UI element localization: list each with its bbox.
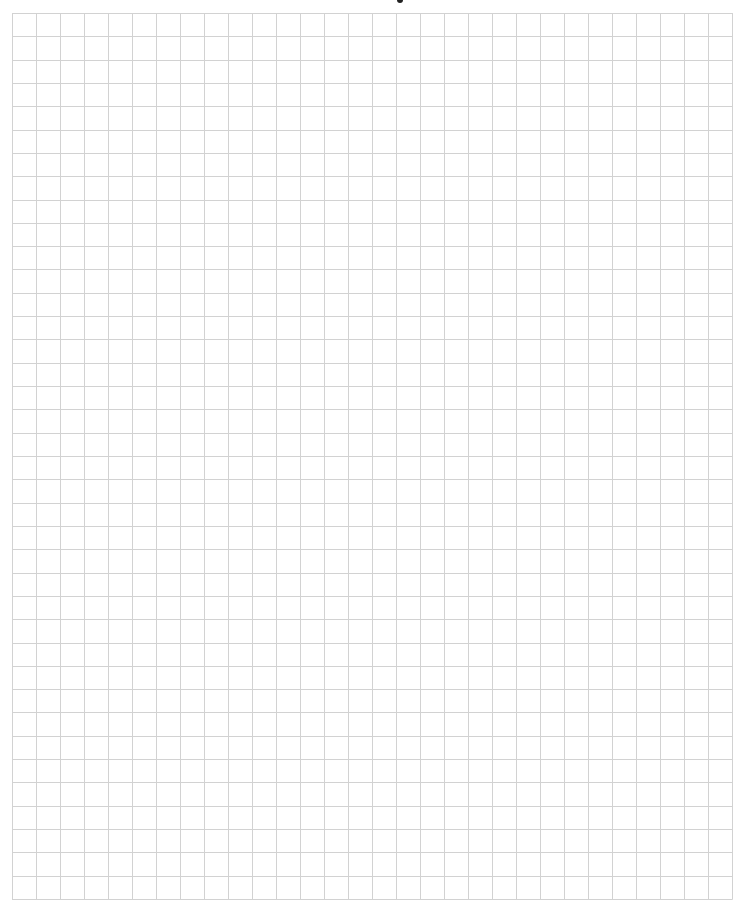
square-grid	[12, 13, 732, 899]
graph-paper-page	[0, 0, 745, 908]
cropped-header-text	[397, 0, 403, 3]
grid-lines	[12, 13, 733, 900]
